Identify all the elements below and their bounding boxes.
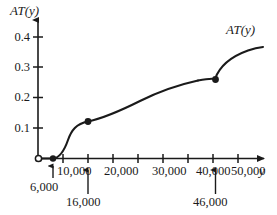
x-tick-label-20000: 20,000 [104, 165, 138, 178]
marker-dot-16000 [85, 118, 92, 125]
curve-label: AT(y) [226, 23, 255, 36]
x-tick-label-50000: 50,000 [231, 165, 265, 178]
x-tick-label-10000: 10,000 [57, 165, 91, 178]
y-tick-label-0-1: 0.1 [0, 122, 30, 135]
annotation-label-46000: 46,000 [193, 196, 227, 209]
x-tick-label-40000: 40,000 [196, 165, 230, 178]
marker-open-circle-origin [35, 155, 41, 161]
annotation-label-6000: 6,000 [30, 181, 58, 194]
figure-at-y-chart: AT(y) AT(y) y 0.4 0.3 0.2 0.1 10,000 20,… [0, 0, 277, 215]
y-axis-title: AT(y) [10, 4, 39, 17]
annotation-label-16000: 16,000 [66, 196, 100, 209]
y-tick-label-0-3: 0.3 [0, 61, 30, 74]
curve-segment-upper [198, 47, 263, 81]
x-tick-label-30000: 30,000 [152, 165, 186, 178]
marker-dot-6000 [50, 155, 56, 161]
y-tick-label-0-2: 0.2 [0, 91, 30, 104]
marker-dot-46000 [212, 76, 219, 83]
curve-segment-lower [53, 81, 198, 159]
y-tick-label-0-4: 0.4 [0, 31, 30, 44]
